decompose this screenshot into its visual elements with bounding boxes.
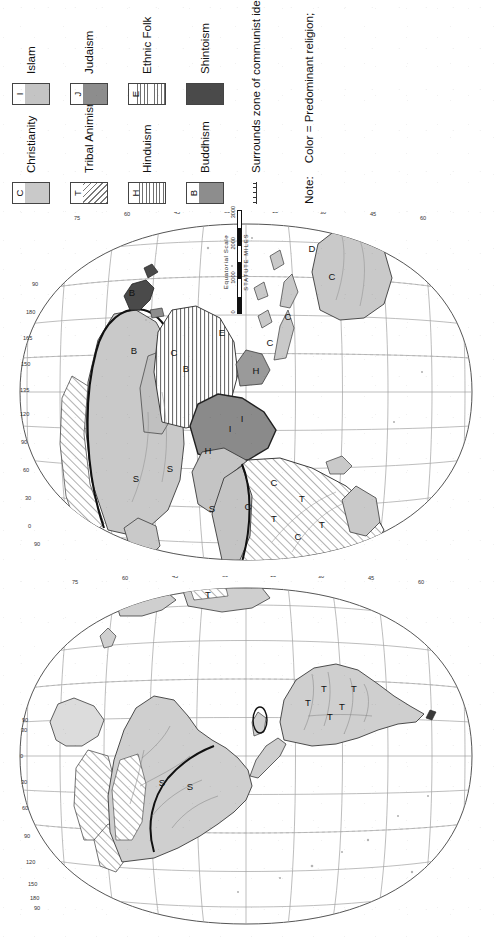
svg-text:T: T: [351, 683, 357, 694]
swatch-hinduism: H: [128, 182, 166, 204]
svg-text:S: S: [133, 473, 139, 484]
svg-text:T: T: [205, 589, 211, 600]
legend-label-tribal-animism: Tribal Animism: [83, 97, 95, 173]
svg-text:90: 90: [21, 439, 27, 445]
svg-text:60: 60: [418, 579, 424, 585]
svg-text:90: 90: [22, 717, 28, 723]
svg-text:45: 45: [174, 212, 180, 215]
footnote-color-key: Color = Predominant religion;: [302, 13, 315, 163]
svg-text:I: I: [229, 423, 232, 434]
svg-text:0: 0: [28, 523, 31, 529]
legend-item-islam[interactable]: I Islam: [12, 6, 50, 105]
swatch-islam: I: [12, 83, 50, 105]
scale-bar-graphic: [237, 210, 242, 314]
legend-label-judaism: Judaism: [83, 31, 95, 74]
svg-text:D: D: [309, 243, 316, 254]
svg-text:165: 165: [23, 335, 32, 341]
svg-text:75: 75: [72, 579, 78, 585]
svg-text:150: 150: [21, 361, 30, 367]
svg-text:C: C: [171, 347, 178, 358]
legend-item-buddhism[interactable]: B Buddhism: [186, 105, 224, 204]
svg-text:C: C: [295, 531, 302, 542]
swatch-letter: C: [14, 183, 25, 203]
swatch-letter: H: [130, 183, 141, 203]
svg-text:0: 0: [20, 753, 23, 759]
swatch-letter: T: [72, 183, 83, 203]
communist-zone-line-icon: [250, 182, 262, 204]
svg-text:H: H: [253, 365, 260, 376]
legend-row: T Tribal Animism J Judaism: [70, 6, 128, 204]
legend-item-christianity[interactable]: C Christianity: [12, 105, 50, 204]
map-legend: C Christianity I Islam: [6, 6, 492, 204]
svg-text:T: T: [299, 493, 305, 504]
scale-tick-1000: 1000: [230, 271, 236, 283]
svg-text:S: S: [209, 503, 215, 514]
svg-text:B: B: [129, 287, 135, 298]
svg-text:90: 90: [24, 833, 30, 839]
map-plate: S S T T T T T T C 90: [0, 0, 498, 946]
scale-tick-labels: 0 1000 2000 3000: [230, 210, 237, 314]
svg-text:H: H: [205, 445, 212, 456]
legend-label-ethnic-folk: Ethnic Folk: [141, 17, 153, 74]
svg-text:S: S: [167, 463, 173, 474]
svg-text:T: T: [327, 711, 333, 722]
svg-text:15: 15: [272, 212, 278, 214]
svg-text:30: 30: [318, 576, 324, 579]
swatch-letter: E: [130, 84, 141, 104]
swatch-letter: J: [72, 84, 83, 104]
scale-title: Equatorial Scale: [222, 210, 229, 314]
svg-text:30: 30: [21, 779, 27, 785]
legend-label-buddhism: Buddhism: [199, 121, 211, 173]
legend-item-shintoism[interactable]: Shintoism: [186, 6, 224, 105]
legend-label-communist-zone: Surrounds zone of communist ideology: [250, 0, 262, 173]
legend-item-ethnic-folk[interactable]: E Ethnic Folk: [128, 6, 166, 105]
svg-text:B: B: [183, 363, 189, 374]
svg-text:75: 75: [74, 215, 80, 221]
legend-footnote: Note:Color = Predominant religion;Letter…: [302, 0, 315, 204]
swatch-ethnic-folk: E: [128, 83, 166, 105]
svg-text:45: 45: [370, 212, 376, 217]
svg-text:90: 90: [34, 541, 40, 547]
svg-text:90: 90: [34, 905, 40, 911]
globe-western-hemisphere[interactable]: S S T T T T T T C 90: [12, 576, 480, 936]
legend-row: H Hinduism E Ethnic Folk: [128, 6, 186, 204]
swatch-buddhism: B: [186, 182, 224, 204]
legend-item-communist-zone[interactable]: Surrounds zone of communist ideology: [250, 6, 262, 204]
svg-text:45: 45: [368, 576, 374, 581]
world-map: S S T T T T T T C 90: [4, 210, 494, 940]
svg-text:180: 180: [30, 895, 39, 901]
svg-text:15: 15: [270, 576, 276, 578]
footnote-prefix: Note:: [302, 176, 315, 204]
scale-units: STATUTE MILES: [243, 210, 249, 314]
svg-text:30: 30: [320, 212, 326, 215]
svg-text:120: 120: [26, 859, 35, 865]
svg-text:S: S: [159, 777, 165, 788]
scale-bar: Equatorial Scale 0 1000 2000 3000 STATUT…: [222, 210, 268, 314]
svg-text:T: T: [319, 519, 325, 530]
swatch-letter: B: [188, 183, 199, 203]
svg-text:180: 180: [26, 309, 35, 315]
svg-text:T: T: [305, 697, 311, 708]
svg-text:30: 30: [222, 576, 228, 578]
scale-tick-3000: 3000: [230, 206, 236, 218]
legend-swatch-grid: C Christianity I Islam: [12, 6, 244, 204]
svg-text:B: B: [131, 345, 137, 356]
svg-text:45: 45: [172, 576, 178, 579]
swatch-tribal-animism: T: [70, 182, 108, 204]
svg-text:E: E: [219, 327, 225, 338]
svg-text:135: 135: [20, 387, 29, 393]
svg-text:60: 60: [124, 212, 130, 217]
svg-text:60: 60: [22, 805, 28, 811]
legend-label-islam: Islam: [25, 46, 37, 74]
legend-item-tribal-animism[interactable]: T Tribal Animism: [70, 105, 108, 204]
svg-text:60: 60: [420, 215, 426, 221]
svg-text:60: 60: [122, 576, 128, 581]
legend-label-christianity: Christianity: [25, 116, 37, 173]
legend-item-judaism[interactable]: J Judaism: [70, 6, 108, 105]
legend-label-hinduism: Hinduism: [141, 125, 153, 173]
svg-text:C: C: [329, 271, 336, 282]
svg-text:30: 30: [25, 495, 31, 501]
legend-item-hinduism[interactable]: H Hinduism: [128, 105, 166, 204]
svg-text:C: C: [141, 587, 148, 598]
svg-text:C: C: [267, 337, 274, 348]
